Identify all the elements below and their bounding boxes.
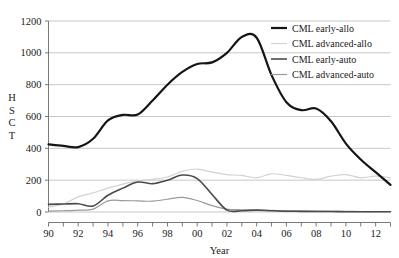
y-axis-title-letter: H xyxy=(8,92,16,103)
legend-label: CML advanced-allo xyxy=(292,38,372,49)
y-axis-title-letter: T xyxy=(9,130,16,141)
x-tick-label: 06 xyxy=(281,228,292,239)
x-tick-label: 90 xyxy=(43,228,54,239)
x-tick-label: 08 xyxy=(311,228,322,239)
y-axis-title-letter: S xyxy=(9,105,15,116)
x-tick-label: 10 xyxy=(341,228,352,239)
y-tick-label: 600 xyxy=(26,111,42,122)
x-tick-label: 12 xyxy=(370,228,381,239)
x-axis xyxy=(49,223,391,227)
x-axis-title: Year xyxy=(210,245,230,256)
y-tick-label: 800 xyxy=(26,79,42,90)
x-tick-label: 02 xyxy=(222,228,233,239)
x-axis-title-text: Year xyxy=(210,245,230,256)
line-chart: 020040060080010001200 909294969800020406… xyxy=(0,0,399,258)
y-tick-label: 1200 xyxy=(21,16,42,27)
y-tick-label: 0 xyxy=(36,207,41,218)
x-tick-label: 04 xyxy=(251,228,262,239)
x-axis-tick-labels: 909294969800020406081012 xyxy=(43,228,381,239)
legend-label: CML early-allo xyxy=(292,23,354,34)
y-axis-title: HSCT xyxy=(8,92,16,141)
x-tick-label: 96 xyxy=(132,228,143,239)
gridlines xyxy=(49,21,391,212)
series-line xyxy=(49,197,391,211)
y-tick-label: 1000 xyxy=(21,47,42,58)
x-tick-label: 98 xyxy=(162,228,173,239)
chart-container: 020040060080010001200 909294969800020406… xyxy=(0,0,399,258)
x-tick-label: 94 xyxy=(103,228,114,239)
legend: CML early-alloCML advanced-alloCML early… xyxy=(271,23,374,81)
legend-label: CML early-auto xyxy=(292,54,356,65)
legend-label: CML advanced-auto xyxy=(292,69,374,80)
y-axis xyxy=(45,21,49,212)
y-axis-tick-labels: 020040060080010001200 xyxy=(21,16,42,218)
y-axis-title-letter: C xyxy=(8,117,15,128)
y-tick-label: 400 xyxy=(26,143,42,154)
y-tick-label: 200 xyxy=(26,175,42,186)
x-tick-label: 92 xyxy=(73,228,84,239)
x-tick-label: 00 xyxy=(192,228,203,239)
